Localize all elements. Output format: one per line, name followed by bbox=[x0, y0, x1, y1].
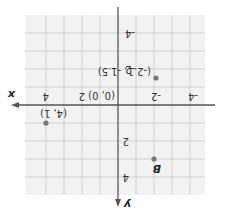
x-tick-label: -2 bbox=[151, 91, 161, 102]
y-tick-label: -4 bbox=[125, 28, 135, 39]
point-b bbox=[151, 156, 156, 161]
y-tick-label: 4 bbox=[123, 172, 129, 183]
y-tick-label: 2 bbox=[123, 136, 129, 147]
point-label-b: B bbox=[153, 162, 161, 175]
point-4-1 bbox=[43, 120, 48, 125]
x-axis-label: x bbox=[7, 88, 16, 101]
point-neg2.1-neg1.5 bbox=[153, 75, 158, 80]
x-tick-label: -4 bbox=[188, 91, 198, 102]
origin-label: (0, 0) bbox=[88, 90, 115, 101]
point-label-4-1: (4, 1) bbox=[40, 108, 67, 119]
rotated-plane: x y -4 -2 2 4 4 2 -2 -4 (0, 0) (4, 1) (-… bbox=[7, 7, 215, 211]
x-axis-arrow-icon bbox=[11, 102, 19, 108]
x-tick-label: 4 bbox=[43, 91, 49, 102]
y-axis-arrow-icon bbox=[115, 199, 121, 207]
point-label-neg2.1-neg1.5: (-2.1, -1.5) bbox=[98, 66, 151, 77]
coordinate-plane: x y -4 -2 2 4 4 2 -2 -4 (0, 0) (4, 1) (-… bbox=[0, 0, 227, 215]
x-tick-label: 2 bbox=[79, 91, 85, 102]
y-axis-label: y bbox=[123, 198, 131, 211]
